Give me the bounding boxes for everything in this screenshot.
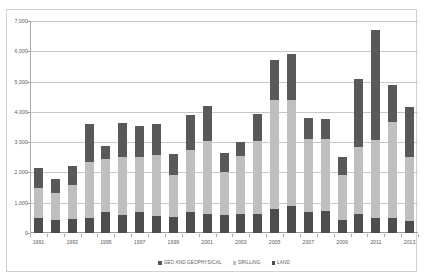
y-axis: 01,0002,0003,0004,0005,0006,0007,000	[0, 21, 28, 233]
x-axis-tick-mark	[418, 234, 419, 237]
bar-segment-land	[354, 214, 363, 233]
legend-swatch-icon	[272, 261, 276, 265]
bar-stack	[338, 157, 347, 233]
bar-segment-land	[186, 212, 195, 233]
bar-stack	[34, 168, 43, 233]
bar-stack	[371, 30, 380, 233]
bar-segment-geo-and-geophysical	[51, 179, 60, 193]
bar-stack	[203, 106, 212, 233]
bar-stack	[354, 79, 363, 233]
x-axis-tick-mark	[199, 234, 200, 237]
x-axis-tick-mark	[114, 234, 115, 237]
bar-segment-land	[304, 212, 313, 233]
x-axis-tick-mark	[216, 234, 217, 237]
bar-stack	[85, 124, 94, 233]
bar-segment-geo-and-geophysical	[338, 157, 347, 175]
bar-stack	[270, 60, 279, 233]
y-axis-tick-label: 5,000	[2, 79, 28, 85]
bar-segment-land	[118, 215, 127, 233]
x-axis-tick-label: 1997	[129, 239, 151, 246]
x-axis-tick-mark	[317, 234, 318, 237]
x-axis-tick-mark	[148, 234, 149, 237]
bar-stack	[220, 153, 229, 233]
x-axis-tick-label: 2005	[264, 239, 286, 246]
bar-segment-geo-and-geophysical	[68, 166, 77, 184]
bar-segment-land	[236, 214, 245, 233]
bar-segment-land	[371, 218, 380, 233]
bar-stack	[118, 123, 127, 233]
legend-item[interactable]: DRILLING	[233, 260, 261, 266]
bar-segment-drilling	[321, 139, 330, 212]
x-axis-tick-mark	[384, 234, 385, 237]
bar-segment-land	[101, 212, 110, 233]
bar-stack	[321, 119, 330, 233]
bar-stack	[135, 126, 144, 233]
bar-segment-land	[270, 209, 279, 233]
bar-segment-land	[388, 218, 397, 233]
y-axis-tick-label: 4,000	[2, 109, 28, 115]
x-axis-tick-mark	[81, 234, 82, 237]
legend-label: LAND	[277, 260, 290, 266]
bar-segment-drilling	[338, 175, 347, 220]
x-axis-tick-mark	[30, 234, 31, 237]
bar-segment-land	[321, 211, 330, 233]
x-axis-tick-mark	[401, 234, 402, 237]
bar-segment-drilling	[85, 162, 94, 217]
bar-segment-drilling	[287, 100, 296, 206]
bar-segment-land	[287, 206, 296, 233]
bar-segment-drilling	[169, 175, 178, 217]
bar-segment-geo-and-geophysical	[253, 114, 262, 141]
chart-legend: GEO AND GEOPHYSICALDRILLINGLAND	[30, 258, 418, 268]
bar-segment-geo-and-geophysical	[34, 168, 43, 188]
bar-segment-geo-and-geophysical	[236, 142, 245, 157]
bar-stack	[253, 114, 262, 233]
x-axis-tick-mark	[47, 234, 48, 237]
chart-figure: 01,0002,0003,0004,0005,0006,0007,000 199…	[0, 0, 424, 280]
x-axis-tick-label: 1999	[162, 239, 184, 246]
x-axis-tick-mark	[266, 234, 267, 237]
bar-segment-land	[85, 218, 94, 233]
bar-segment-land	[220, 215, 229, 233]
legend-label: DRILLING	[238, 260, 260, 266]
x-axis-tick-label: 2009	[331, 239, 353, 246]
x-axis-tick-mark	[351, 234, 352, 237]
bar-segment-geo-and-geophysical	[354, 79, 363, 147]
y-axis-tick-label: 3,000	[2, 139, 28, 145]
x-axis-tick-mark	[64, 234, 65, 237]
bar-segment-drilling	[34, 188, 43, 219]
bar-stack	[68, 166, 77, 233]
y-axis-tick-label: 7,000	[2, 18, 28, 24]
bar-segment-land	[152, 216, 161, 233]
bar-stack	[304, 118, 313, 233]
bar-segment-land	[135, 212, 144, 233]
bar-segment-drilling	[51, 193, 60, 220]
x-axis: 1991199319951997199920012003200520072009…	[30, 234, 418, 250]
bar-segment-land	[34, 218, 43, 233]
legend-swatch-icon	[158, 261, 162, 265]
bar-stack	[236, 142, 245, 233]
bar-stack	[101, 146, 110, 233]
bar-segment-geo-and-geophysical	[152, 124, 161, 155]
bar-segment-geo-and-geophysical	[371, 30, 380, 140]
x-axis-tick-label: 2007	[297, 239, 319, 246]
bar-segment-drilling	[236, 156, 245, 214]
bar-segment-geo-and-geophysical	[203, 106, 212, 141]
legend-item[interactable]: LAND	[272, 260, 290, 266]
bar-segment-land	[405, 221, 414, 233]
bar-segment-geo-and-geophysical	[405, 107, 414, 157]
bar-segment-geo-and-geophysical	[85, 124, 94, 162]
bar-segment-geo-and-geophysical	[287, 54, 296, 99]
x-axis-tick-mark	[300, 234, 301, 237]
bar-segment-land	[203, 214, 212, 233]
bar-stack	[169, 154, 178, 233]
legend-item[interactable]: GEO AND GEOPHYSICAL	[158, 260, 222, 266]
bar-segment-drilling	[220, 172, 229, 214]
x-axis-tick-mark	[182, 234, 183, 237]
bar-segment-geo-and-geophysical	[270, 60, 279, 99]
x-axis-tick-mark	[131, 234, 132, 237]
legend-swatch-icon	[233, 261, 237, 265]
bar-segment-drilling	[68, 185, 77, 219]
bar-segment-geo-and-geophysical	[186, 115, 195, 150]
x-axis-tick-mark	[334, 234, 335, 237]
bar-segment-drilling	[371, 140, 380, 219]
